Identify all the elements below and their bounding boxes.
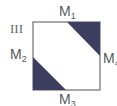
label-m1: M1 [59, 4, 76, 23]
label-m2: M2 [10, 47, 27, 66]
label-m3: M3 [59, 92, 76, 106]
panel-label: III [10, 22, 23, 36]
label-m4: M4 [103, 51, 117, 70]
